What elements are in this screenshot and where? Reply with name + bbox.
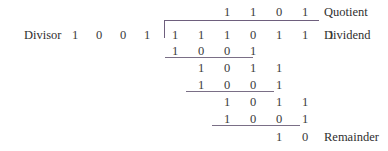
dividend-digit: 0 [244,29,262,41]
remainder-digit: 1 [270,131,288,143]
dividend-digit: 1 [218,29,236,41]
divisor-digit: 0 [90,29,108,41]
partial-remainder-digit: 1 [296,96,314,108]
quotient-digit: 0 [270,6,288,18]
subtrahend-digit: 0 [218,45,236,57]
subtraction-rule-3 [212,125,300,126]
dividend-digit: 1 [166,29,184,41]
subtrahend-digit: 1 [270,79,288,91]
remainder-digit: 0 [296,131,314,143]
division-bracket-vertical [164,20,165,38]
remainder-label: Remainder [324,131,379,143]
subtrahend-digit: 0 [244,113,262,125]
dividend-digit: 1 [192,29,210,41]
division-bracket-overbar [164,20,319,21]
quotient-label: Quotient [324,6,368,18]
divisor-digit: 0 [114,29,132,41]
divisor-label: Divisor [24,29,62,41]
quotient-digit: 1 [244,6,262,18]
subtrahend-digit: 1 [296,113,314,125]
quotient-digit: 1 [218,6,236,18]
partial-remainder-digit: 1 [244,62,262,74]
quotient-digit: 1 [296,6,314,18]
binary-long-division-figure: Divisor 1 0 0 1 1 1 0 1 Quotient 1 1 1 0… [0,0,388,151]
subtrahend-digit: 1 [244,45,262,57]
dividend-digit: 1 [270,29,288,41]
partial-remainder-digit: 1 [192,62,210,74]
partial-remainder-digit: 1 [270,96,288,108]
partial-remainder-digit: 0 [218,62,236,74]
subtrahend-digit: 0 [270,113,288,125]
divisor-digit: 1 [66,29,84,41]
subtrahend-digit: 1 [166,45,184,57]
dividend-label: Dividend [324,29,371,41]
dividend-digit: 1 [296,29,314,41]
subtrahend-digit: 0 [192,45,210,57]
subtraction-rule-1 [165,57,253,58]
subtrahend-digit: 1 [192,79,210,91]
subtrahend-digit: 0 [218,79,236,91]
subtraction-rule-2 [186,91,274,92]
subtrahend-digit: 0 [244,79,262,91]
partial-remainder-digit: 1 [270,62,288,74]
divisor-digit: 1 [138,29,156,41]
partial-remainder-digit: 0 [244,96,262,108]
subtrahend-digit: 1 [218,113,236,125]
partial-remainder-digit: 1 [218,96,236,108]
